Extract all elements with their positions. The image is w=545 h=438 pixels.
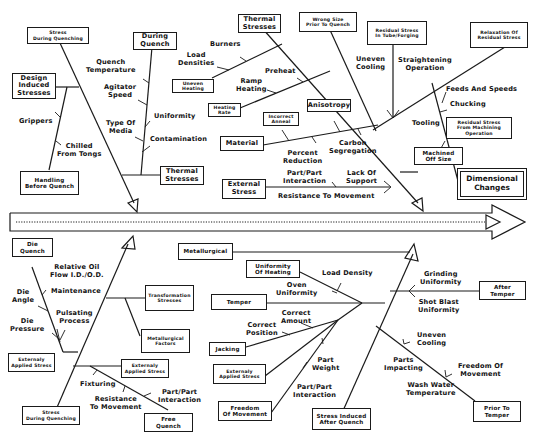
cause-box-heating-rate: Heating Rate [208,103,241,117]
spine-arrow [10,205,525,239]
label-chilled-from-tongs: Chilled From Tongs [57,143,102,159]
label-load-densities: Load Densities [178,52,214,68]
cause-box-after-temper: After Temper [479,281,526,300]
label-lack-of-support: Lack Of Support [346,170,377,186]
label-shot-blast-uniformity: Shot Blast Uniformity [418,299,460,315]
label-tooling: Tooling [412,120,440,128]
label-fixturing: Fixturing [80,381,116,389]
cause-box-uneven-heating: Uneven Heating [172,79,214,93]
label-pulsating-process: Pulsating Process [56,310,93,326]
cause-box-transformation-stresses: Transformation Stresses [145,285,194,311]
label-resistance-to-movement-top: Resistance To Movement [278,193,375,201]
cause-box-wrong-size-prior-to-quench: Wrong Size Prior To Quench [299,12,357,32]
label-freedom-of-movement: Freedom Of Movement [458,363,503,379]
cause-box-jacking: Jacking [209,342,246,356]
label-maintenance: Maintenance [51,288,101,296]
label-load-density: Load Density [322,270,373,278]
cause-box-externaly-applied-stress-left: Externaly Applied Stress [8,353,55,372]
cause-box-temper: Temper [211,294,267,310]
cause-box-stress-induced-after-quench: Stress Induced After Quench [312,408,371,430]
label-correct-amount: Correct Amount [281,310,311,326]
label-correct-position: Correct Position [246,322,278,338]
cause-box-thermal-stresses-small: Thermal Stresses [160,166,204,185]
label-die-pressure: Die Pressure [10,318,44,334]
label-part-part-interaction-bottom-mid: Part/Part Interaction [293,384,336,400]
cause-box-anisotropy: Anisotropy [307,99,351,112]
cause-box-stress-during-quenching-top: Stress During Quenching [27,27,89,44]
cause-box-prior-to-temper: Prior To Temper [473,401,521,422]
cause-box-externaly-applied-stress-mid: Externaly Applied Stress [121,359,169,378]
label-uneven-cooling-bottom: Uneven Cooling [417,332,446,348]
label-carbon-segregation: Carbon Segregation [329,140,377,156]
cause-box-free-quench: Free Quench [144,413,193,432]
cause-box-material: Material [220,136,264,151]
label-uneven-cooling-top: Uneven Cooling [356,56,385,72]
cause-box-freedom-of-movement: Freedom Of Movement [218,401,272,421]
label-grippers: Grippers [19,118,53,126]
label-wash-water-temperature: Wash Water Temperature [406,382,456,398]
label-burners: Burners [210,41,241,49]
branch-wrong-size [330,30,376,131]
label-oven-uniformity: Oven Uniformity [276,282,318,298]
effect-box-dimensional-changes: Dimensional Changes [457,168,527,200]
cause-box-incorrect-anneal: Incorrect Anneal [263,112,299,126]
cause-box-handling-before-quench: Handling Before Quench [20,171,79,195]
label-percent-reduction: Percent Reduction [283,150,322,166]
cause-box-relaxation-of-residual-stress: Relaxation Of Residual Stress [470,22,528,48]
cause-box-uniformity-of-heating: Uniformity Of Heating [246,260,300,278]
cause-box-externaly-applied-stress-right: Externaly Applied Stress [213,364,266,384]
label-contamination: Contamination [150,136,207,144]
cause-box-design-induced-stresses: Design Induced Stresses [12,73,56,99]
label-agitator-speed: Agitator Speed [104,84,136,100]
cause-box-residual-stress-machining: Residual Stress From Machining Operation [446,117,512,139]
cause-box-residual-stress-tube-forging: Residual Stress In Tube/Forging [367,21,427,45]
label-type-of-media: Type Of Media [106,120,135,136]
cause-box-external-stress: External Stress [222,179,266,199]
cause-box-die-quench: Die Quench [12,238,53,257]
cause-box-machined-off-size: Machined Off Size [414,147,463,165]
label-quench-temperature: Quench Temperature [86,59,136,75]
label-resistance-to-movement-bottom: Resistance To Movement [90,396,142,412]
label-part-part-interaction-top: Part/Part Interaction [283,170,326,186]
effect-label: Dimensional Changes [460,171,524,197]
cause-box-stress-during-quenching-bottom: Stress During Quenching [22,406,80,425]
label-chucking: Chucking [450,101,486,109]
label-relative-oil-flow: Relative Oil Flow I.D./O.D. [50,264,104,280]
label-parts-impacting: Parts Impacting [384,357,423,373]
label-part-part-interaction-bottom-left: Part/Part Interaction [158,389,201,405]
label-die-angle: Die Angle [12,289,34,305]
label-grinding-uniformity: Grinding Uniformity [420,271,462,287]
cause-box-metallurgical-factors: Metallurgical Factors [141,329,190,353]
label-ramp-heating: Ramp Heating [236,78,267,94]
cause-box-during-quench: During Quench [133,32,177,50]
label-part-weight: Part Weight [312,357,340,373]
label-feeds-and-speeds: Feeds And Speeds [446,86,517,94]
label-preheat: Preheat [265,68,296,76]
label-straightening-operation: Straightening Operation [398,57,452,73]
label-uniformity: Uniformity [154,113,196,121]
cause-box-thermal-stresses: Thermal Stresses [238,14,281,33]
cause-box-metallurgical: Metallurgical [178,243,233,260]
